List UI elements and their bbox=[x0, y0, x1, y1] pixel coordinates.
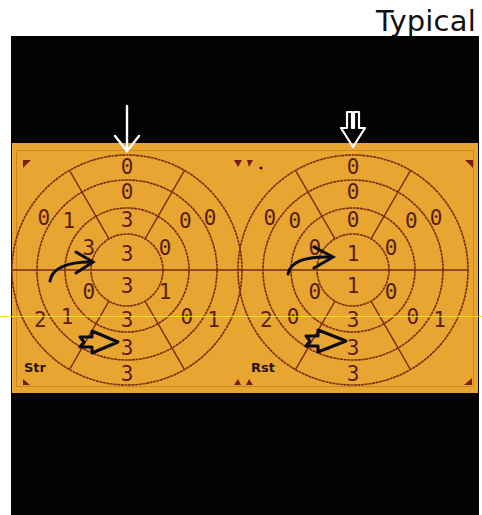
segment-score: 3 bbox=[121, 208, 134, 232]
segment-score: 0 bbox=[288, 209, 301, 233]
segment-score: 0 bbox=[430, 206, 443, 230]
segment-score: 3 bbox=[121, 336, 134, 360]
segment-score: 1 bbox=[433, 308, 446, 332]
segment-score: 0 bbox=[121, 180, 134, 204]
stress-map-label: Str bbox=[24, 360, 46, 375]
polar-maps: 00021301010333001333 0002130000030000031… bbox=[0, 0, 482, 515]
segment-score: 0 bbox=[347, 208, 360, 232]
marker-bottom-right-icon bbox=[464, 378, 472, 385]
segment-score: 0 bbox=[385, 280, 398, 304]
segment-score: 1 bbox=[347, 274, 360, 298]
dot-icon bbox=[259, 166, 262, 169]
segment-score: 3 bbox=[121, 308, 134, 332]
segment-score: 0 bbox=[121, 155, 134, 179]
segment-score: 0 bbox=[159, 236, 172, 260]
segment-score: 2 bbox=[34, 308, 47, 332]
thin-down-arrow-icon bbox=[115, 106, 139, 151]
segment-score: 0 bbox=[347, 180, 360, 204]
rest-map-label: Rst bbox=[251, 360, 275, 375]
segment-score: 0 bbox=[347, 155, 360, 179]
segment-score: 0 bbox=[264, 206, 277, 230]
rest-polar-map: 00021300000300000311 bbox=[238, 155, 468, 386]
segment-score: 0 bbox=[309, 280, 322, 304]
stress-polar-map: 00021301010333001333 bbox=[12, 155, 242, 386]
marker-bottom-mid-b-icon bbox=[246, 379, 253, 385]
segment-score: 0 bbox=[204, 206, 217, 230]
segment-score: 3 bbox=[347, 336, 360, 360]
segment-score: 0 bbox=[385, 236, 398, 260]
segment-score: 0 bbox=[405, 209, 418, 233]
marker-top-left-icon bbox=[23, 160, 31, 168]
marker-top-mid-a-icon bbox=[234, 160, 242, 167]
segment-score: 3 bbox=[121, 242, 134, 266]
segment-score: 3 bbox=[121, 362, 134, 386]
segment-score: 3 bbox=[347, 308, 360, 332]
segment-score: 1 bbox=[207, 308, 220, 332]
segment-score: 1 bbox=[347, 242, 360, 266]
segment-score: 0 bbox=[179, 209, 192, 233]
marker-bottom-left-icon bbox=[23, 379, 30, 385]
marker-top-mid-b-icon bbox=[247, 160, 253, 167]
segment-score: 0 bbox=[38, 206, 51, 230]
segment-score: 1 bbox=[159, 280, 172, 304]
segment-score: 2 bbox=[260, 308, 273, 332]
segment-score: 1 bbox=[62, 209, 75, 233]
segment-score: 3 bbox=[121, 274, 134, 298]
marker-bottom-mid-a-icon bbox=[234, 379, 241, 385]
segment-score: 3 bbox=[347, 362, 360, 386]
segment-score: 0 bbox=[83, 280, 96, 304]
open-down-arrow-icon bbox=[341, 112, 365, 147]
scan-line bbox=[0, 316, 482, 317]
marker-top-right-icon bbox=[465, 160, 473, 168]
